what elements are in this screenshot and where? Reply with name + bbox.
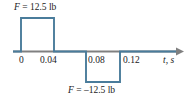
x-tick-label-0-04: 0.04 <box>40 56 57 66</box>
force-time-diagram: F = 12.5 lb F = –12.5 lb 0 0.04 0.08 0.1… <box>0 0 195 101</box>
axis-arrowhead-icon <box>176 48 184 56</box>
x-tick-label-0-12: 0.12 <box>123 56 140 66</box>
x-tick-label-0-08: 0.08 <box>88 56 105 66</box>
x-tick-label-0: 0 <box>19 56 24 66</box>
pulse-trace <box>13 18 176 82</box>
positive-force-annotation: F = 12.5 lb <box>14 3 56 13</box>
force-waveform <box>13 18 176 82</box>
negative-force-annotation: F = –12.5 lb <box>68 86 115 96</box>
x-axis-label: t, s <box>163 56 174 66</box>
